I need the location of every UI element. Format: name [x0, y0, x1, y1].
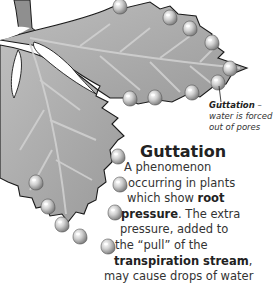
caption-line: transpiration stream, — [114, 254, 277, 270]
caption-line: pressure, added to — [118, 222, 277, 238]
caption-line: occurring in plants — [118, 176, 277, 192]
caption-line: which show root — [118, 191, 277, 207]
callout-line-2: out of pores — [209, 122, 260, 132]
caption-line: A phenomenon — [118, 160, 277, 176]
guttation-callout: Guttation – water is forced out of pores — [209, 100, 279, 133]
caption-line: may cause drops of water — [104, 269, 277, 285]
caption-line: pressure. The extra — [118, 207, 277, 223]
callout-line-1: water is forced — [209, 111, 272, 121]
callout-dash: – — [255, 100, 262, 110]
caption-line: the “pull” of the — [115, 238, 277, 254]
caption-body: A phenomenon occurring in plants which s… — [118, 160, 277, 285]
callout-term: Guttation — [209, 100, 255, 110]
caption-title: Guttation — [140, 142, 226, 161]
